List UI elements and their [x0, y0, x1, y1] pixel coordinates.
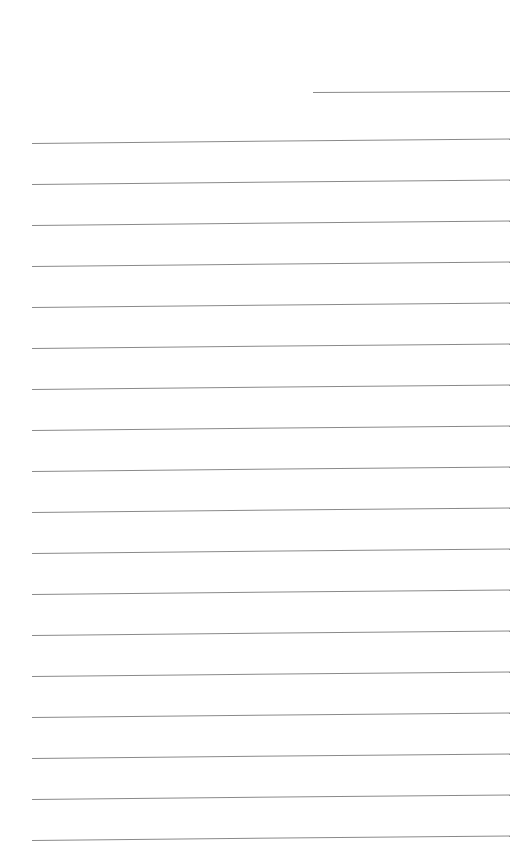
ruled-line — [32, 589, 510, 595]
ruled-line — [32, 712, 510, 718]
ruled-line — [32, 671, 510, 677]
ruled-line — [32, 179, 510, 185]
ruled-line — [32, 794, 510, 800]
ruled-line — [32, 220, 510, 226]
ruled-line — [32, 466, 510, 472]
ruled-line — [32, 261, 510, 267]
ruled-line — [32, 507, 510, 513]
ruled-line — [32, 548, 510, 554]
ruled-line — [32, 343, 510, 349]
ruled-line — [32, 753, 510, 759]
header-name-line — [313, 91, 510, 93]
ruled-line — [32, 425, 510, 431]
ruled-line — [32, 630, 510, 636]
lined-paper-page — [0, 0, 529, 865]
ruled-line — [32, 302, 510, 308]
ruled-line — [32, 835, 510, 841]
ruled-line — [32, 138, 510, 144]
ruled-line — [32, 384, 510, 390]
